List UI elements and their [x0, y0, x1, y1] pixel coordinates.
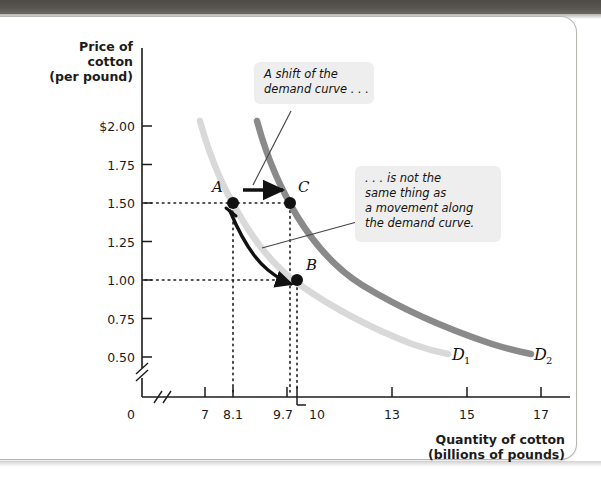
curve-label-d1-letter: D — [451, 345, 465, 364]
y-axis-title-line-3: (per pound) — [49, 69, 133, 84]
y-tick-label-0-75: 0.75 — [107, 312, 135, 327]
x-origin-label: 0 — [127, 407, 135, 422]
x-tick-label-8-1: 8.1 — [223, 407, 243, 422]
movement-callout-line-2: same thing as — [365, 186, 446, 200]
y-tick-label-2-00: $2.00 — [99, 119, 135, 134]
shift-callout: A shift of the demand curve . . . — [254, 62, 374, 104]
x-axis-tick-labels: 7 8.1 9.7 10 13 15 17 0 — [127, 407, 549, 422]
y-tick-label-1-00: 1.00 — [107, 273, 135, 288]
curve-label-d1-subscript: 1 — [464, 355, 470, 366]
data-point-a-label: A — [210, 178, 223, 196]
data-point-c-label: C — [298, 178, 310, 196]
y-tick-label-1-25: 1.25 — [107, 235, 135, 250]
x-tick-label-13: 13 — [384, 407, 400, 422]
x-axis-title-line-2: (billions of pounds) — [428, 447, 565, 462]
y-axis-title: Price of cotton (per pound) — [49, 39, 133, 84]
curve-label-d2-letter: D — [533, 345, 547, 364]
data-point-c-dot — [284, 197, 296, 209]
movement-callout: . . . is not the same thing as a movemen… — [355, 166, 501, 242]
x-axis-ticks — [205, 387, 541, 405]
movement-callout-line-4: the demand curve. — [365, 216, 474, 230]
data-point-b-label: B — [305, 256, 317, 274]
data-point-a-dot — [227, 197, 239, 209]
x-tick-label-7: 7 — [201, 407, 209, 422]
y-tick-label-0-50: 0.50 — [107, 350, 135, 365]
figure-page: $2.00 1.75 1.50 1.25 1.00 0.75 0.50 7 8.… — [0, 0, 601, 489]
y-axis-title-line-1: Price of — [79, 39, 133, 54]
guide-lines — [145, 203, 297, 392]
shift-callout-line-2: demand curve . . . — [264, 82, 369, 96]
x-tick-label-17: 17 — [533, 407, 549, 422]
y-axis-tick-labels: $2.00 1.75 1.50 1.25 1.00 0.75 0.50 — [99, 119, 135, 365]
data-point-b-dot — [291, 274, 303, 286]
y-tick-label-1-50: 1.50 — [107, 196, 135, 211]
shift-callout-line-1: A shift of the — [263, 67, 338, 81]
movement-callout-line-1: . . . is not the — [365, 171, 441, 185]
movement-callout-line-3: a movement along — [365, 201, 473, 215]
x-axis-title-line-1: Quantity of cotton — [436, 432, 565, 447]
curve-label-d1: D 1 — [451, 345, 470, 366]
y-tick-label-1-75: 1.75 — [107, 158, 135, 173]
demand-curve-chart: $2.00 1.75 1.50 1.25 1.00 0.75 0.50 7 8.… — [0, 0, 601, 489]
x-tick-label-9-7: 9.7 — [273, 407, 293, 422]
curve-label-d2: D 2 — [533, 345, 552, 366]
x-axis-title: Quantity of cotton (billions of pounds) — [428, 432, 565, 462]
y-axis-title-line-2: cotton — [88, 54, 133, 69]
x-tick-label-10: 10 — [309, 407, 325, 422]
data-point-b: B — [291, 256, 317, 286]
y-axis-ticks — [142, 126, 152, 357]
x-tick-label-15: 15 — [459, 407, 475, 422]
curve-label-d2-subscript: 2 — [546, 355, 552, 366]
